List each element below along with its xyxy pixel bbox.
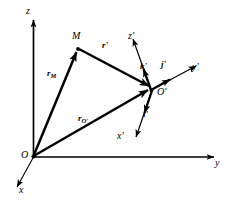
vector-rM-label: rM bbox=[47, 69, 56, 79]
vertex-dots-group bbox=[31, 47, 153, 158]
vector-rOprime-label: rO' bbox=[78, 114, 88, 124]
origin-O-prime-label: O' bbox=[157, 87, 166, 97]
x-axis-line bbox=[17, 157, 34, 187]
vector-r-prime-label: r' bbox=[102, 41, 108, 51]
unit-vector-k-prime-line bbox=[144, 69, 152, 90]
vector-rM-subscript: M bbox=[51, 72, 57, 79]
vector-rM-line bbox=[34, 52, 77, 156]
z-prime-axis-label: z' bbox=[128, 31, 134, 41]
vector-rOprime-subscript: O' bbox=[82, 117, 89, 124]
point-M-dot bbox=[76, 47, 80, 51]
unit-vector-j-prime-label: j' bbox=[161, 60, 166, 69]
vector-r-prime-base: r' bbox=[102, 40, 108, 50]
position-vectors-group bbox=[34, 49, 150, 156]
origin-O-dot bbox=[31, 154, 35, 158]
origin-O-prime-dot bbox=[150, 89, 154, 93]
vector-diagram-figure: z y x z' y' x' O M O' rM rO' r' i' j' k' bbox=[0, 0, 239, 206]
z-axis-label: z bbox=[26, 6, 30, 16]
unit-vector-i-prime-label: i' bbox=[143, 110, 148, 119]
y-axis-label: y bbox=[215, 158, 219, 168]
vector-rOprime-line bbox=[35, 90, 149, 156]
x-prime-axis-label: x' bbox=[117, 131, 124, 141]
unit-vector-k-prime-label: k' bbox=[140, 62, 147, 71]
origin-O-label: O bbox=[21, 150, 28, 160]
x-axis-label: x bbox=[19, 185, 23, 195]
fixed-axes-group bbox=[17, 20, 214, 187]
y-prime-axis-label: y' bbox=[192, 62, 199, 72]
point-M-label: M bbox=[72, 31, 80, 41]
diagram-canvas bbox=[0, 0, 239, 206]
